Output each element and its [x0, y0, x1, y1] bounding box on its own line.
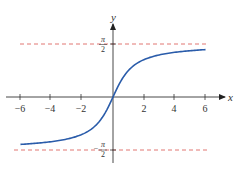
svg-text:π: π: [101, 35, 106, 44]
x-tick-label: 2: [142, 103, 147, 114]
x-tick-label: 6: [203, 103, 208, 114]
svg-text:2: 2: [101, 45, 105, 54]
arctan-chart: −6 −4 −2 2 4 6 x y π 2 − π 2: [0, 0, 239, 171]
y-tick-label-pi-over-2: π 2: [99, 35, 107, 54]
y-axis-label: y: [110, 11, 116, 23]
svg-text:−: −: [94, 144, 99, 153]
x-tick-label: −2: [76, 103, 87, 114]
svg-text:π: π: [101, 140, 106, 149]
x-tick-label: −6: [15, 103, 26, 114]
x-axis-label: x: [227, 91, 233, 103]
x-tick-label: 4: [172, 103, 177, 114]
y-tick-label-neg-pi-over-2: − π 2: [94, 140, 107, 159]
x-tick-label: −4: [45, 103, 56, 114]
svg-text:2: 2: [101, 150, 105, 159]
